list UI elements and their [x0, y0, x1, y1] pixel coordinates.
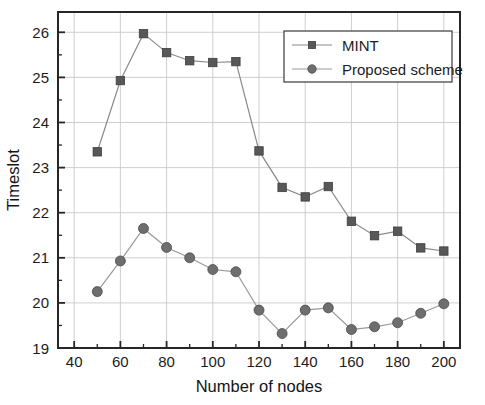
y-tick-label: 26 [32, 24, 49, 41]
data-point-marker[interactable]: MINT: (170, 21.49) [370, 231, 378, 239]
data-point-marker[interactable]: MINT: (200, 21.15) [440, 247, 448, 255]
x-tick-label: 80 [158, 353, 175, 370]
data-point-marker[interactable]: Proposed scheme: (70, 21.65) [138, 223, 148, 233]
data-point-marker[interactable]: MINT: (180, 21.59) [393, 227, 401, 235]
data-point-marker[interactable]: MINT: (120, 23.37) [255, 147, 263, 155]
x-tick-label: 160 [339, 353, 364, 370]
data-point-marker[interactable]: Proposed scheme: (90, 21) [185, 253, 195, 263]
line-chart-figure: MINT: (50, 23.35)MINT: (60, 24.93)MINT: … [0, 0, 485, 405]
y-tick-label: 23 [32, 159, 49, 176]
data-point-marker[interactable]: MINT: (150, 22.58) [324, 182, 332, 190]
x-tick-label: 200 [431, 353, 456, 370]
data-point-marker[interactable]: MINT: (190, 21.22) [417, 244, 425, 252]
data-point-marker[interactable]: Proposed scheme: (80, 21.23) [162, 242, 172, 252]
data-point-marker[interactable]: MINT: (130, 22.56) [278, 183, 286, 191]
legend-label: MINT [342, 37, 379, 54]
data-point-marker[interactable]: MINT: (70, 25.97) [139, 29, 147, 37]
x-tick-label: 140 [293, 353, 318, 370]
data-point-marker[interactable]: MINT: (140, 22.35) [301, 193, 309, 201]
data-point-marker[interactable]: Proposed scheme: (110, 20.69) [231, 267, 241, 277]
data-point-marker[interactable]: Proposed scheme: (150, 19.89) [323, 303, 333, 313]
y-tick-label: 22 [32, 204, 49, 221]
y-axis-title: Timeslot [4, 149, 22, 211]
x-tick-label: 40 [66, 353, 83, 370]
x-axis-title: Number of nodes [196, 377, 323, 395]
chart-container: MINT: (50, 23.35)MINT: (60, 24.93)MINT: … [0, 0, 485, 405]
data-point-marker[interactable]: MINT: (160, 21.81) [347, 217, 355, 225]
data-point-marker[interactable]: Proposed scheme: (60, 20.93) [115, 256, 125, 266]
x-tick-label: 60 [112, 353, 129, 370]
x-tick-labels: 406080100120140160180200 [66, 353, 457, 370]
data-point-marker[interactable]: Proposed scheme: (170, 19.47) [370, 322, 380, 332]
data-point-marker[interactable]: Proposed scheme: (130, 19.32) [277, 329, 287, 339]
square-marker-icon [309, 42, 316, 49]
data-point-marker[interactable]: MINT: (60, 24.93) [116, 76, 124, 84]
data-point-marker[interactable]: Proposed scheme: (140, 19.84) [300, 305, 310, 315]
y-tick-label: 24 [32, 114, 49, 131]
data-point-marker[interactable]: MINT: (50, 23.35) [93, 148, 101, 156]
legend-label: Proposed scheme [342, 61, 463, 78]
x-tick-label: 120 [246, 353, 271, 370]
y-tick-label: 20 [32, 294, 49, 311]
data-point-marker[interactable]: Proposed scheme: (50, 20.25) [92, 287, 102, 297]
data-point-marker[interactable]: MINT: (110, 25.35) [232, 57, 240, 65]
circle-marker-icon [308, 65, 316, 73]
data-point-marker[interactable]: MINT: (90, 25.37) [185, 57, 193, 65]
data-point-marker[interactable]: Proposed scheme: (180, 19.56) [393, 318, 403, 328]
chart-legend[interactable]: MINTProposed scheme [284, 31, 463, 82]
data-point-marker[interactable]: Proposed scheme: (190, 19.77) [416, 308, 426, 318]
data-point-marker[interactable]: Proposed scheme: (100, 20.74) [208, 265, 218, 275]
data-point-marker[interactable]: Proposed scheme: (160, 19.41) [346, 325, 356, 335]
data-point-marker[interactable]: MINT: (100, 25.33) [209, 58, 217, 66]
data-point-marker[interactable]: MINT: (80, 25.55) [162, 48, 170, 56]
y-tick-label: 21 [32, 249, 49, 266]
x-tick-label: 180 [385, 353, 410, 370]
y-tick-label: 19 [32, 340, 49, 357]
data-point-marker[interactable]: Proposed scheme: (120, 19.84) [254, 305, 264, 315]
x-tick-label: 100 [200, 353, 225, 370]
y-tick-label: 25 [32, 69, 49, 86]
data-point-marker[interactable]: Proposed scheme: (200, 19.98) [439, 299, 449, 309]
